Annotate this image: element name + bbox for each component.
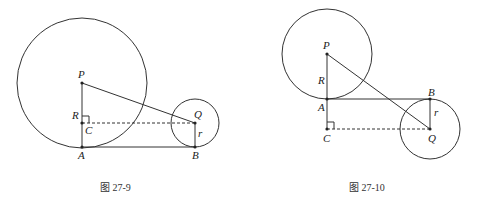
- label-R: R: [71, 109, 79, 121]
- label-C: C: [85, 124, 93, 136]
- label-P: P: [77, 68, 85, 80]
- label-r: r: [198, 127, 203, 139]
- label-A: A: [77, 149, 85, 161]
- point-C: [80, 121, 83, 124]
- label-B: B: [428, 86, 435, 98]
- caption-27-10: 图 27-10: [349, 182, 385, 193]
- label-P: P: [322, 39, 330, 51]
- point-A: [325, 97, 328, 100]
- caption-27-9: 图 27-9: [100, 182, 131, 193]
- label-Q: Q: [428, 132, 436, 144]
- point-P: [80, 81, 83, 84]
- label-C: C: [323, 132, 331, 144]
- label-r: r: [434, 106, 439, 118]
- figure-27-9: [17, 18, 219, 148]
- label-R: R: [317, 74, 325, 86]
- label-A: A: [317, 101, 325, 113]
- point-Q: [428, 127, 431, 130]
- point-Q: [193, 121, 196, 124]
- label-Q: Q: [194, 108, 202, 120]
- segment-PQ: [327, 54, 430, 129]
- point-P: [325, 52, 328, 55]
- point-C: [325, 127, 328, 130]
- label-B: B: [192, 149, 199, 161]
- segment-PQ: [82, 83, 195, 123]
- diagram-canvas: P R C A Q r B 图 27-9 P R A C B r Q 图 27-…: [0, 0, 478, 204]
